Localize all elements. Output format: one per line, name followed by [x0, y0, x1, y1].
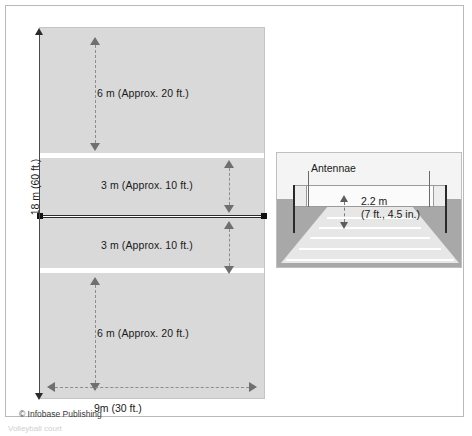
arrow-head-right [249, 382, 257, 392]
floor-court-line [299, 248, 441, 250]
center-net-line [39, 215, 265, 218]
dimension-label-court-length: 18 m (60 ft.) [29, 142, 41, 232]
arrow-shaft [95, 45, 96, 143]
arrow-head-up [90, 277, 100, 285]
floor-court-line [310, 237, 430, 239]
dimension-label-back-zone-bottom: 6 m (Approx. 20 ft.) [97, 327, 189, 339]
arrow-head-up [224, 160, 234, 168]
net-post-right [445, 185, 447, 233]
arrow-head-up [224, 221, 234, 229]
arrow-shaft [229, 168, 230, 205]
dimension-arrow-court-width [47, 381, 257, 393]
arrow-head-left [47, 382, 55, 392]
net-height-metric: 2.2 m [361, 195, 387, 207]
overhead-court-diagram: 6 m (Approx. 20 ft.) 3 m (Approx. 10 ft.… [39, 27, 265, 399]
arrow-shaft [95, 285, 96, 383]
floor-court-line [319, 227, 421, 229]
arrow-head-down [90, 143, 100, 151]
dimension-label-front-zone-top: 3 m (Approx. 10 ft.) [101, 179, 193, 191]
antenna-right-icon [429, 171, 430, 207]
arrow-head-down [340, 222, 348, 229]
dimension-label-back-zone-top: 6 m (Approx. 20 ft.) [97, 87, 189, 99]
copyright-notice: © Infobase Publishing [19, 409, 102, 419]
net-height-imperial: (7 ft., 4.5 in.) [361, 208, 420, 221]
net-side-band-left [293, 185, 307, 207]
volleyball-court-figure: 6 m (Approx. 20 ft.) 3 m (Approx. 10 ft.… [0, 0, 472, 436]
dimension-arrow-front-zone-bottom [221, 221, 237, 274]
antenna-left-icon [308, 171, 309, 207]
arrow-head-down [224, 266, 234, 274]
attack-line-top [40, 153, 264, 158]
net-post-right-marker [261, 213, 267, 219]
arrow-shaft [55, 387, 249, 388]
court-surface [39, 27, 265, 399]
arrow-head-up [90, 37, 100, 45]
arrow-head-down [224, 205, 234, 213]
figure-frame: 6 m (Approx. 20 ft.) 3 m (Approx. 10 ft.… [5, 5, 464, 417]
arrow-shaft [229, 229, 230, 266]
caption-fragment: Volleyball court [8, 424, 62, 433]
arrow-shaft [344, 202, 345, 222]
dimension-label-front-zone-bottom: 3 m (Approx. 10 ft.) [101, 239, 193, 251]
arrow-head-up [340, 195, 348, 202]
arrow-head-up [35, 28, 43, 35]
dimension-arrow-front-zone-top [221, 160, 237, 213]
perspective-net-diagram: Antennae 2.2 m (7 ft., 4.5 in.) [276, 152, 462, 268]
net-post-left [293, 185, 295, 233]
net-height-label: 2.2 m (7 ft., 4.5 in.) [361, 195, 420, 221]
antennae-label: Antennae [311, 162, 356, 174]
floor-court-line [286, 259, 454, 261]
arrow-head-down [35, 393, 43, 400]
dimension-arrow-net-height [337, 195, 351, 229]
